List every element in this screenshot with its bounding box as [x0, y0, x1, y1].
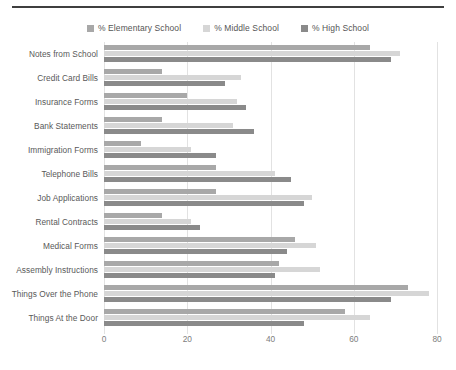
bar[interactable] — [104, 177, 291, 182]
bar-group — [104, 284, 444, 304]
chart-plot-area: Notes from SchoolCredit Card BillsInsura… — [0, 42, 456, 334]
bar[interactable] — [104, 273, 275, 278]
chart-legend: % Elementary School% Middle School% High… — [0, 20, 456, 36]
category-label: Insurance Forms — [0, 90, 98, 114]
chart-row: Things At the Door — [0, 306, 456, 330]
chart-row: Immigration Forms — [0, 138, 456, 162]
bar-group — [104, 164, 444, 184]
chart-bar-rows: Notes from SchoolCredit Card BillsInsura… — [0, 42, 456, 334]
bar-group — [104, 236, 444, 256]
bar[interactable] — [104, 213, 162, 218]
legend-swatch-icon — [87, 25, 94, 32]
bar-group — [104, 92, 444, 112]
category-label: Notes from School — [0, 42, 98, 66]
bar[interactable] — [104, 201, 304, 206]
bar[interactable] — [104, 123, 233, 128]
bar[interactable] — [104, 51, 400, 56]
bar-group — [104, 260, 444, 280]
bar[interactable] — [104, 153, 216, 158]
legend-label: % Elementary School — [98, 23, 181, 33]
bar-group — [104, 116, 444, 136]
bar[interactable] — [104, 315, 370, 320]
bar[interactable] — [104, 99, 237, 104]
bar[interactable] — [104, 189, 216, 194]
chart-row: Bank Statements — [0, 114, 456, 138]
legend-item[interactable]: % Middle School — [203, 23, 279, 33]
bar-group — [104, 44, 444, 64]
category-label: Things At the Door — [0, 306, 98, 330]
bar-group — [104, 308, 444, 328]
category-label: Telephone Bills — [0, 162, 98, 186]
chart-row: Telephone Bills — [0, 162, 456, 186]
bar[interactable] — [104, 75, 241, 80]
bar[interactable] — [104, 45, 370, 50]
category-label: Rental Contracts — [0, 210, 98, 234]
x-axis-tick-label: 40 — [266, 334, 275, 344]
bar[interactable] — [104, 249, 287, 254]
bar[interactable] — [104, 147, 191, 152]
bar[interactable] — [104, 57, 391, 62]
bar[interactable] — [104, 243, 316, 248]
x-axis-tick-label: 80 — [432, 334, 441, 344]
bar[interactable] — [104, 129, 254, 134]
category-label: Job Applications — [0, 186, 98, 210]
bar-group — [104, 68, 444, 88]
category-label: Credit Card Bills — [0, 66, 98, 90]
bar[interactable] — [104, 93, 187, 98]
legend-item[interactable]: % Elementary School — [87, 23, 181, 33]
x-axis-tick-label: 60 — [349, 334, 358, 344]
bar[interactable] — [104, 165, 216, 170]
bar[interactable] — [104, 105, 246, 110]
chart-row: Assembly Instructions — [0, 258, 456, 282]
legend-swatch-icon — [203, 25, 210, 32]
legend-label: % High School — [312, 23, 369, 33]
chart-row: Job Applications — [0, 186, 456, 210]
bar[interactable] — [104, 267, 320, 272]
bar[interactable] — [104, 291, 429, 296]
bar[interactable] — [104, 237, 295, 242]
chart-row: Medical Forms — [0, 234, 456, 258]
bar[interactable] — [104, 261, 279, 266]
bar[interactable] — [104, 309, 345, 314]
category-label: Immigration Forms — [0, 138, 98, 162]
bar[interactable] — [104, 69, 162, 74]
bar-group — [104, 188, 444, 208]
chart-row: Things Over the Phone — [0, 282, 456, 306]
legend-swatch-icon — [301, 25, 308, 32]
x-axis-tick-label: 0 — [102, 334, 107, 344]
category-label: Bank Statements — [0, 114, 98, 138]
bar[interactable] — [104, 321, 304, 326]
chart-row: Rental Contracts — [0, 210, 456, 234]
bar[interactable] — [104, 219, 191, 224]
chart-row: Insurance Forms — [0, 90, 456, 114]
chart-row: Notes from School — [0, 42, 456, 66]
x-axis: 020406080 — [0, 334, 456, 354]
x-axis-tick-label: 20 — [183, 334, 192, 344]
bar[interactable] — [104, 117, 162, 122]
category-label: Medical Forms — [0, 234, 98, 258]
legend-label: % Middle School — [214, 23, 279, 33]
bar[interactable] — [104, 297, 391, 302]
category-label: Things Over the Phone — [0, 282, 98, 306]
chart-row: Credit Card Bills — [0, 66, 456, 90]
bar[interactable] — [104, 141, 141, 146]
bar-group — [104, 212, 444, 232]
bar[interactable] — [104, 225, 200, 230]
header-divider — [12, 6, 444, 8]
bar[interactable] — [104, 285, 408, 290]
bar-group — [104, 140, 444, 160]
category-label: Assembly Instructions — [0, 258, 98, 282]
bar[interactable] — [104, 171, 275, 176]
bar[interactable] — [104, 195, 312, 200]
bar[interactable] — [104, 81, 225, 86]
legend-item[interactable]: % High School — [301, 23, 369, 33]
